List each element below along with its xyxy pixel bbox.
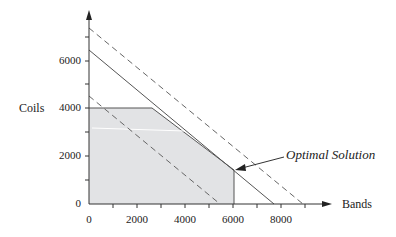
x-axis-label: Bands	[342, 197, 372, 212]
x-tick-label: 4000	[165, 213, 205, 225]
x-tick-label: 8000	[261, 213, 301, 225]
x-tick-label: 0	[69, 213, 109, 225]
y-tick-label: 4000	[41, 101, 81, 113]
x-axis-arrow-icon	[322, 201, 332, 207]
x-tick-label: 6000	[213, 213, 253, 225]
y-axis-label: Coils	[19, 101, 44, 116]
y-tick-label: 2000	[41, 149, 81, 161]
y-tick-label: 6000	[41, 54, 81, 66]
annotation-arrow-icon	[235, 164, 246, 171]
y-axis-arrow-icon	[86, 10, 92, 20]
optimal-solution-annotation: Optimal Solution	[286, 147, 375, 163]
x-tick-label: 2000	[117, 213, 157, 225]
y-tick-label: 0	[41, 197, 81, 209]
